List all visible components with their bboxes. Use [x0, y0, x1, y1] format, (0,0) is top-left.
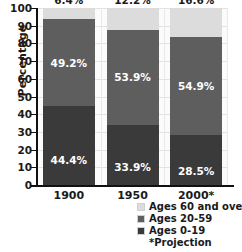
y-axis-tick-label: 90 — [8, 21, 32, 32]
legend-item[interactable]: Ages 0-19 — [137, 225, 242, 237]
bar-1900: 44.4%49.2%6.4% — [43, 8, 95, 185]
y-axis-tick-label: 50 — [8, 92, 32, 103]
legend-footnote: *Projection — [149, 237, 242, 249]
y-axis-tickmark — [31, 79, 36, 80]
y-axis-tick-label: 80 — [8, 38, 32, 49]
bar-segment: 16.6% — [170, 8, 222, 37]
legend-item-label: Ages 0-19 — [149, 226, 205, 236]
gridline-vertical — [164, 8, 165, 185]
legend-item-label: Ages 20-59 — [149, 214, 212, 224]
bar-segment: 54.9% — [170, 37, 222, 134]
legend-swatch-icon — [137, 227, 145, 235]
y-axis-tickmark — [31, 132, 36, 133]
bar-value-label: 44.4% — [43, 155, 95, 166]
bar-segment: 6.4% — [43, 8, 95, 19]
y-axis-tickmark — [31, 167, 36, 168]
y-axis-tickmark — [31, 97, 36, 98]
bar-value-label: 49.2% — [43, 58, 95, 69]
bar-1950: 33.9%53.9%12.2% — [107, 8, 159, 185]
y-axis-tickmark — [31, 26, 36, 27]
legend-item[interactable]: Ages 60 and over — [137, 201, 242, 213]
y-axis-tick-label: 40 — [8, 109, 32, 120]
bar-value-label: 54.9% — [170, 81, 222, 92]
bar-segment: 53.9% — [107, 30, 159, 125]
bar-value-label: 12.2% — [107, 0, 159, 6]
y-axis-tick-label: 100 — [8, 3, 32, 14]
y-axis-tick-label: 60 — [8, 74, 32, 85]
bar-value-label: 16.6% — [170, 0, 222, 6]
legend-swatch-icon — [137, 203, 145, 211]
bar-segment: 44.4% — [43, 106, 95, 185]
y-axis-tickmark — [31, 43, 36, 44]
legend-swatch-icon — [137, 215, 145, 223]
plot-area: 44.4%49.2%6.4%33.9%53.9%12.2%28.5%54.9%1… — [37, 8, 228, 185]
y-axis-tickmark — [31, 150, 36, 151]
gridline-vertical — [227, 8, 228, 185]
bar-value-label: 53.9% — [107, 72, 159, 83]
legend: Ages 60 and overAges 20-59Ages 0-19*Proj… — [137, 201, 242, 249]
y-axis-tick-label: 70 — [8, 56, 32, 67]
bar-2000: 28.5%54.9%16.6% — [170, 8, 222, 185]
x-axis-tick-label: 1900 — [39, 189, 99, 202]
bar-value-label: 33.9% — [107, 162, 159, 173]
bar-segment: 28.5% — [170, 135, 222, 185]
y-axis-tick-label: 20 — [8, 145, 32, 156]
bar-value-label: 6.4% — [43, 0, 95, 6]
gridline-vertical — [101, 8, 102, 185]
y-axis-tick-label: 10 — [8, 162, 32, 173]
y-axis-tickmark — [31, 61, 36, 62]
y-axis-tickmark — [31, 114, 36, 115]
x-axis-line — [30, 185, 234, 187]
bar-segment: 49.2% — [43, 19, 95, 106]
y-axis-tickmark — [31, 185, 36, 186]
bar-segment: 12.2% — [107, 8, 159, 30]
y-axis-tick-label: 0 — [8, 180, 32, 191]
legend-item[interactable]: Ages 20-59 — [137, 213, 242, 225]
y-axis-tick-label: 30 — [8, 127, 32, 138]
bar-value-label: 28.5% — [170, 166, 222, 177]
y-axis-line — [36, 8, 38, 186]
bar-segment: 33.9% — [107, 125, 159, 185]
stacked-bar-chart: Percentage 0102030405060708090100 44.4%4… — [0, 0, 242, 252]
y-axis-tickmark — [31, 8, 36, 9]
legend-item-label: Ages 60 and over — [149, 202, 242, 212]
y-axis-tick-labels: 0102030405060708090100 — [6, 0, 32, 252]
